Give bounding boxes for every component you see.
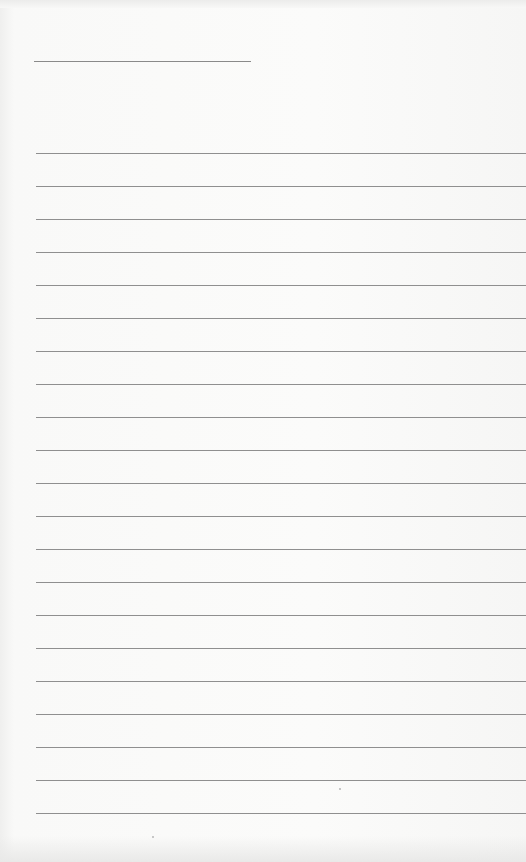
ruled-line (36, 153, 526, 154)
ruled-line (36, 516, 526, 517)
title-rule (34, 61, 251, 62)
scan-edge-bottom (0, 836, 526, 862)
ruled-line (36, 219, 526, 220)
ruled-line (36, 384, 526, 385)
scan-edge-top (0, 0, 526, 8)
ruled-line (36, 252, 526, 253)
ruled-line (36, 780, 526, 781)
ruled-line (36, 648, 526, 649)
ruled-line (36, 318, 526, 319)
paper-speck (339, 788, 341, 790)
ruled-line (36, 351, 526, 352)
ruled-line (36, 813, 526, 814)
ruled-line (36, 747, 526, 748)
ruled-line (36, 450, 526, 451)
lined-paper-page (0, 0, 526, 862)
ruled-line (36, 582, 526, 583)
ruled-line (36, 714, 526, 715)
ruled-line (36, 285, 526, 286)
ruled-line (36, 483, 526, 484)
ruled-line (36, 615, 526, 616)
ruled-line (36, 549, 526, 550)
ruled-line (36, 417, 526, 418)
ruled-line (36, 681, 526, 682)
ruled-line (36, 186, 526, 187)
